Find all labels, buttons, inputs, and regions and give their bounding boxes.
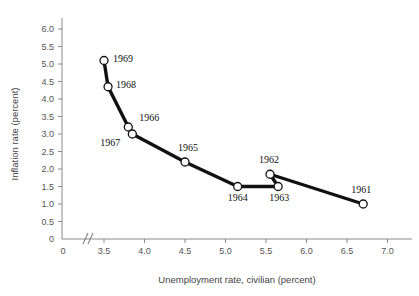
series-group: 196119621963196419651966196719681969 bbox=[100, 53, 371, 209]
x-axis-tick-label: 6.0 bbox=[300, 246, 313, 256]
axes-group: 00.51.01.52.02.53.03.54.04.55.05.56.003.… bbox=[41, 18, 412, 256]
data-point-label: 1961 bbox=[351, 184, 371, 195]
x-axis-tick-label: 6.5 bbox=[341, 246, 354, 256]
y-axis-tick-label: 4.0 bbox=[41, 94, 54, 104]
y-axis-tick-label: 1.5 bbox=[41, 182, 54, 192]
data-point-label: 1962 bbox=[259, 154, 279, 165]
data-point-label: 1963 bbox=[269, 192, 289, 203]
y-axis-tick-label: 1.0 bbox=[41, 199, 54, 209]
data-point-label: 1967 bbox=[100, 137, 120, 148]
x-axis-tick-label: 5.0 bbox=[219, 246, 232, 256]
x-axis-tick-label: 5.5 bbox=[260, 246, 273, 256]
data-point-label: 1969 bbox=[113, 53, 133, 64]
x-axis-title: Unemployment rate, civilian (percent) bbox=[158, 274, 315, 285]
x-axis-tick-label: 4.0 bbox=[138, 246, 151, 256]
x-axis-tick-label: 7.0 bbox=[381, 246, 394, 256]
y-axis-tick-label: 3.5 bbox=[41, 112, 54, 122]
data-point-marker[interactable] bbox=[100, 57, 108, 65]
y-axis-tick-label: 5.5 bbox=[41, 42, 54, 52]
x-axis-tick-label: 0 bbox=[60, 246, 65, 256]
data-point-marker[interactable] bbox=[128, 130, 136, 138]
y-axis-tick-label: 4.5 bbox=[41, 77, 54, 87]
x-axis-tick-label: 3.5 bbox=[98, 246, 111, 256]
data-point-marker[interactable] bbox=[181, 158, 189, 166]
series-line bbox=[104, 61, 363, 205]
y-axis-tick-label: 6.0 bbox=[41, 24, 54, 34]
data-point-label: 1968 bbox=[116, 79, 136, 90]
chart-canvas: 00.51.01.52.02.53.03.54.04.55.05.56.003.… bbox=[0, 0, 419, 296]
data-point-marker[interactable] bbox=[104, 83, 112, 91]
y-axis-tick-label: 2.5 bbox=[41, 147, 54, 157]
data-point-marker[interactable] bbox=[274, 183, 282, 191]
phillips-curve-chart: 00.51.01.52.02.53.03.54.04.55.05.56.003.… bbox=[0, 0, 419, 296]
data-point-marker[interactable] bbox=[266, 170, 274, 178]
data-point-marker[interactable] bbox=[359, 200, 367, 208]
y-axis-tick-label: 2.0 bbox=[41, 164, 54, 174]
data-point-marker[interactable] bbox=[234, 183, 242, 191]
y-axis-title: Inflation rate (percent) bbox=[9, 88, 20, 181]
y-axis-tick-label: 3.0 bbox=[41, 129, 54, 139]
y-axis-tick-label: 0 bbox=[49, 234, 54, 244]
data-point-label: 1965 bbox=[178, 142, 198, 153]
y-axis-tick-label: 5.0 bbox=[41, 59, 54, 69]
x-axis-tick-label: 4.5 bbox=[179, 246, 192, 256]
data-point-label: 1964 bbox=[228, 192, 248, 203]
data-point-label: 1966 bbox=[139, 112, 159, 123]
y-axis-tick-label: 0.5 bbox=[41, 217, 54, 227]
